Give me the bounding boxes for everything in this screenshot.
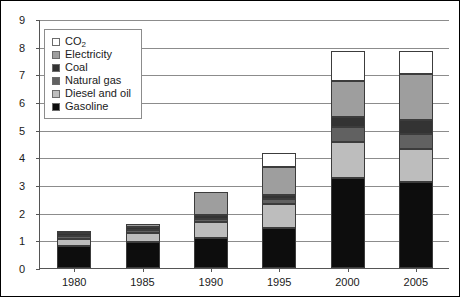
y-axis-tick-label: 7 bbox=[0, 69, 25, 81]
legend-swatch-icon bbox=[52, 51, 60, 59]
y-axis-tick-label: 9 bbox=[0, 14, 25, 26]
bar-segment-electricity[interactable] bbox=[126, 224, 160, 227]
bar-segment-co2[interactable] bbox=[331, 51, 365, 81]
legend-swatch-icon bbox=[52, 64, 60, 72]
legend-item[interactable]: Natural gas bbox=[52, 74, 131, 87]
gridline bbox=[40, 20, 449, 21]
bar-segment-gasoline[interactable] bbox=[194, 238, 228, 268]
x-axis-tick-label: 1995 bbox=[249, 276, 309, 288]
y-axis-tick-label: 8 bbox=[0, 42, 25, 54]
legend-item[interactable]: Electricity bbox=[52, 48, 131, 61]
bar-segment-coal[interactable] bbox=[194, 215, 228, 218]
bar-segment-electricity[interactable] bbox=[399, 74, 433, 120]
y-axis-tick-label: 6 bbox=[0, 97, 25, 109]
x-axis-tick-label: 1985 bbox=[113, 276, 173, 288]
bar-segment-gasoline[interactable] bbox=[331, 178, 365, 268]
gridline bbox=[40, 158, 449, 159]
bar-segment-gasoline[interactable] bbox=[399, 182, 433, 268]
bar-segment-electricity[interactable] bbox=[194, 192, 228, 216]
chart-legend: CO2ElectricityCoalNatural gasDiesel and … bbox=[44, 29, 142, 119]
y-axis-tick-mark bbox=[36, 158, 40, 159]
bar-segment-co2[interactable] bbox=[262, 153, 296, 167]
x-axis-tick-label: 1990 bbox=[181, 276, 241, 288]
bar-segment-gasoline[interactable] bbox=[126, 242, 160, 268]
legend-label: Diesel and oil bbox=[65, 87, 131, 100]
legend-swatch-icon bbox=[52, 103, 60, 111]
bar-segment-coal[interactable] bbox=[331, 117, 365, 127]
y-axis-tick-label: 2 bbox=[0, 208, 25, 220]
legend-item[interactable]: Gasoline bbox=[52, 100, 131, 113]
y-axis-tick-mark bbox=[36, 131, 40, 132]
x-axis-tick-mark bbox=[279, 268, 280, 272]
legend-item[interactable]: CO2 bbox=[52, 35, 131, 48]
y-axis-tick-mark bbox=[36, 269, 40, 270]
bar-segment-electricity[interactable] bbox=[331, 81, 365, 117]
bar-segment-natural-gas[interactable] bbox=[57, 236, 91, 239]
gridline bbox=[40, 186, 449, 187]
bar-segment-co2[interactable] bbox=[399, 51, 433, 75]
x-axis-tick-mark bbox=[74, 268, 75, 272]
x-axis-tick-label: 1980 bbox=[44, 276, 104, 288]
y-axis-tick-mark bbox=[36, 75, 40, 76]
y-axis-tick-label: 4 bbox=[0, 152, 25, 164]
y-axis-tick-mark bbox=[36, 241, 40, 242]
bar-segment-diesel-and-oil[interactable] bbox=[126, 233, 160, 241]
bar-segment-natural-gas[interactable] bbox=[331, 127, 365, 142]
legend-item[interactable]: Coal bbox=[52, 61, 131, 74]
bar-segment-natural-gas[interactable] bbox=[126, 230, 160, 234]
bar-segment-gasoline[interactable] bbox=[57, 246, 91, 268]
y-axis-tick-label: 0 bbox=[0, 263, 25, 275]
bar-segment-coal[interactable] bbox=[399, 120, 433, 134]
bar-segment-natural-gas[interactable] bbox=[399, 134, 433, 149]
y-axis-tick-label: 3 bbox=[0, 180, 25, 192]
y-axis-tick-mark bbox=[36, 186, 40, 187]
chart-container: 0123456789198019851990199520002005 CO2El… bbox=[0, 0, 460, 297]
bar-segment-electricity[interactable] bbox=[57, 231, 91, 233]
bar-segment-diesel-and-oil[interactable] bbox=[262, 204, 296, 228]
legend-label: Coal bbox=[65, 61, 88, 74]
bar-segment-gasoline[interactable] bbox=[262, 228, 296, 268]
legend-swatch-icon bbox=[52, 90, 60, 98]
x-axis-tick-mark bbox=[211, 268, 212, 272]
gridline bbox=[40, 241, 449, 242]
y-axis-tick-label: 1 bbox=[0, 235, 25, 247]
y-axis-tick-label: 5 bbox=[0, 125, 25, 137]
bar-segment-natural-gas[interactable] bbox=[262, 199, 296, 205]
legend-swatch-icon bbox=[52, 38, 60, 46]
y-axis-tick-mark bbox=[36, 48, 40, 49]
bar-segment-diesel-and-oil[interactable] bbox=[57, 239, 91, 246]
bar-segment-coal[interactable] bbox=[57, 233, 91, 236]
legend-swatch-icon bbox=[52, 77, 60, 85]
y-axis-tick-mark bbox=[36, 103, 40, 104]
y-axis-tick-mark bbox=[36, 214, 40, 215]
bar-segment-coal[interactable] bbox=[262, 195, 296, 199]
gridline bbox=[40, 131, 449, 132]
legend-label: Natural gas bbox=[65, 74, 121, 87]
x-axis-tick-mark bbox=[416, 268, 417, 272]
bar-segment-diesel-and-oil[interactable] bbox=[194, 222, 228, 237]
legend-label: CO2 bbox=[65, 35, 86, 49]
x-axis-tick-mark bbox=[143, 268, 144, 272]
x-axis-tick-label: 2005 bbox=[386, 276, 446, 288]
bar-segment-diesel-and-oil[interactable] bbox=[331, 142, 365, 178]
bar-segment-diesel-and-oil[interactable] bbox=[399, 149, 433, 182]
legend-label: Gasoline bbox=[65, 100, 108, 113]
legend-label: Electricity bbox=[65, 48, 112, 61]
legend-item[interactable]: Diesel and oil bbox=[52, 87, 131, 100]
x-axis-tick-mark bbox=[348, 268, 349, 272]
bar-segment-electricity[interactable] bbox=[262, 167, 296, 195]
gridline bbox=[40, 214, 449, 215]
bar-segment-natural-gas[interactable] bbox=[194, 219, 228, 223]
bar-segment-coal[interactable] bbox=[126, 227, 160, 230]
x-axis-tick-label: 2000 bbox=[318, 276, 378, 288]
y-axis-tick-mark bbox=[36, 20, 40, 21]
